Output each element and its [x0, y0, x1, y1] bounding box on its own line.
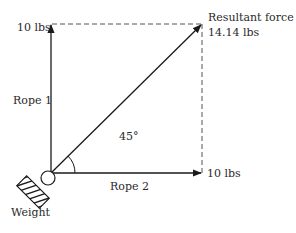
- weight-label: Weight: [11, 206, 51, 219]
- angle-label: 45°: [119, 130, 139, 143]
- rope1-force-label: 10 lbs: [17, 21, 51, 34]
- rope1-label: Rope 1: [13, 94, 52, 107]
- resultant-title: Resultant force: [208, 11, 294, 24]
- angle-arc: [68, 156, 75, 173]
- resultant-value: 14.14 lbs: [208, 26, 260, 39]
- resultant-vector: [51, 25, 201, 173]
- rope2-force-label: 10 lbs: [207, 167, 241, 180]
- rope2-label: Rope 2: [110, 180, 149, 193]
- pivot-circle: [41, 171, 55, 185]
- force-diagram: 10 lbs Rope 1 45° Rope 2 10 lbs Resultan…: [0, 0, 296, 233]
